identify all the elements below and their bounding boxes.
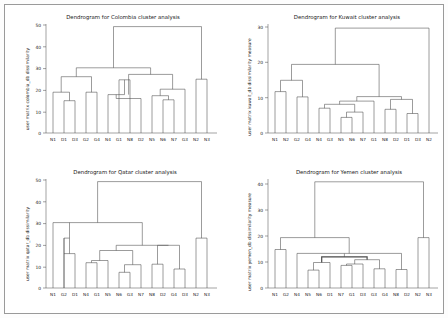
svg-text:N1: N1: [272, 292, 278, 297]
panel-qatar-xticks: N1 G2 D1 N4 G1 N5 N6 G3 N7 N8 D2 G4 D3 N…: [50, 292, 210, 297]
svg-text:N4: N4: [105, 137, 111, 142]
svg-text:30: 30: [35, 221, 41, 226]
svg-text:0: 0: [260, 286, 263, 291]
svg-text:G2: G2: [61, 292, 67, 297]
svg-text:N7: N7: [171, 137, 177, 142]
panel-colombia-ylabel: user matrix colombia_db dissimilarity: [25, 47, 31, 130]
svg-text:10: 10: [257, 96, 263, 101]
panel-yemen-title: Dendrogram for Yemen cluster analysis: [296, 169, 402, 176]
panel-qatar-yticks: 0 10 20 30 40 50: [35, 178, 46, 291]
panel-yemen-ylabel: user matrix yemen_db dissimilarity measu…: [247, 193, 253, 291]
svg-text:G3: G3: [327, 137, 333, 142]
svg-text:G3: G3: [127, 292, 133, 297]
svg-text:G2: G2: [283, 292, 289, 297]
svg-text:D1: D1: [72, 292, 78, 297]
panel-kuwait-dendrogram: [275, 28, 429, 133]
svg-text:D3: D3: [182, 292, 188, 297]
panel-kuwait-ylabel: user matrix kuwait_db dissimilarity meas…: [247, 38, 253, 136]
svg-text:G1: G1: [116, 137, 122, 142]
svg-text:N2: N2: [283, 137, 289, 142]
svg-text:20: 20: [35, 243, 41, 248]
svg-text:N1: N1: [272, 137, 278, 142]
svg-text:N1: N1: [50, 137, 56, 142]
svg-text:D2: D2: [138, 137, 144, 142]
svg-text:N1: N1: [50, 292, 56, 297]
panel-qatar-dendrogram: [53, 182, 207, 288]
svg-text:N3: N3: [204, 292, 210, 297]
svg-text:D2: D2: [160, 292, 166, 297]
svg-text:0: 0: [38, 286, 41, 291]
panel-kuwait-xticks: N1 N2 G2 G4 N4 G3 N5 N6 N7 G1 N8 D2 D1 D…: [272, 137, 432, 142]
panel-yemen-dendrogram: [275, 182, 429, 288]
svg-text:G2: G2: [294, 137, 300, 142]
svg-text:20: 20: [257, 234, 263, 239]
panel-yemen: Dendrogram for Yemen cluster analysis us…: [225, 160, 445, 315]
svg-text:N8: N8: [149, 292, 155, 297]
svg-text:D1: D1: [327, 292, 333, 297]
svg-text:G3: G3: [182, 137, 188, 142]
svg-text:40: 40: [257, 182, 263, 187]
svg-text:50: 50: [35, 23, 41, 28]
panel-colombia-yticks: 0 10 20 30 40 50: [35, 23, 46, 136]
svg-text:G2: G2: [83, 137, 89, 142]
svg-text:G1: G1: [349, 292, 355, 297]
svg-text:N6: N6: [116, 292, 122, 297]
panel-grid: Dendrogram for Colombia cluster analysis…: [5, 5, 445, 315]
svg-text:N2: N2: [426, 137, 432, 142]
svg-text:N7: N7: [138, 292, 144, 297]
svg-text:G1: G1: [94, 292, 100, 297]
svg-text:30: 30: [257, 25, 263, 30]
figure-frame: Dendrogram for Colombia cluster analysis…: [4, 4, 444, 314]
svg-text:D3: D3: [72, 137, 78, 142]
svg-text:N6: N6: [316, 292, 322, 297]
svg-text:G3: G3: [371, 292, 377, 297]
svg-text:D1: D1: [404, 137, 410, 142]
svg-text:40: 40: [35, 45, 41, 50]
svg-text:0: 0: [260, 131, 263, 136]
svg-text:D3: D3: [415, 137, 421, 142]
svg-text:N3: N3: [426, 292, 432, 297]
svg-text:N4: N4: [294, 292, 300, 297]
svg-text:G4: G4: [382, 292, 388, 297]
svg-text:N7: N7: [338, 292, 344, 297]
panel-colombia: Dendrogram for Colombia cluster analysis…: [5, 5, 225, 160]
svg-text:N5: N5: [105, 292, 111, 297]
svg-text:N2: N2: [193, 292, 199, 297]
panel-qatar-title: Dendrogram for Qatar cluster analysis: [73, 169, 177, 176]
panel-qatar-ylabel: user matrix qatar_db dissimilarity: [25, 207, 31, 281]
svg-text:N7: N7: [360, 137, 366, 142]
svg-text:30: 30: [257, 208, 263, 213]
svg-text:N5: N5: [338, 137, 344, 142]
svg-text:N5: N5: [305, 292, 311, 297]
svg-text:D2: D2: [393, 137, 399, 142]
svg-text:D3: D3: [360, 292, 366, 297]
panel-colombia-xticks: N1 D1 D3 G2 G4 N4 G1 N8 D2 N5 N6 N7 G3 N…: [50, 137, 210, 142]
svg-text:N6: N6: [349, 137, 355, 142]
panel-kuwait-title: Dendrogram for Kuwait cluster analysis: [294, 14, 401, 21]
svg-text:N6: N6: [160, 137, 166, 142]
svg-text:10: 10: [35, 265, 41, 270]
svg-text:50: 50: [35, 178, 41, 183]
figure-root: Dendrogram for Colombia cluster analysis…: [0, 0, 448, 318]
svg-text:40: 40: [35, 200, 41, 205]
svg-text:N4: N4: [83, 292, 89, 297]
svg-text:D2: D2: [404, 292, 410, 297]
panel-yemen-yticks: 0 10 20 30 40: [257, 182, 268, 291]
svg-text:N2: N2: [415, 292, 421, 297]
panel-colombia-dendrogram: [53, 27, 207, 133]
svg-text:N3: N3: [204, 137, 210, 142]
svg-text:N8: N8: [127, 137, 133, 142]
svg-text:G4: G4: [305, 137, 311, 142]
svg-text:N2: N2: [193, 137, 199, 142]
svg-text:0: 0: [38, 131, 41, 136]
panel-kuwait-yticks: 0 10 20 30: [257, 25, 268, 136]
svg-text:10: 10: [257, 260, 263, 265]
panel-yemen-xticks: N1 G2 N4 N5 N6 D1 N7 G1 D3 G3 G4 N8 D2 N…: [272, 292, 432, 297]
svg-text:N5: N5: [149, 137, 155, 142]
svg-text:N8: N8: [393, 292, 399, 297]
svg-text:20: 20: [257, 60, 263, 65]
svg-text:G4: G4: [94, 137, 100, 142]
svg-text:20: 20: [35, 88, 41, 93]
svg-text:10: 10: [35, 110, 41, 115]
svg-text:N8: N8: [382, 137, 388, 142]
